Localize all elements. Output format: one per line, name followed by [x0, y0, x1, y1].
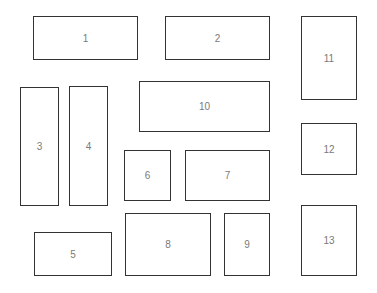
box-12: 12: [301, 123, 357, 175]
box-10: 10: [139, 81, 270, 132]
box-6: 6: [124, 150, 171, 201]
box-4: 4: [69, 86, 108, 206]
box-label: 4: [86, 141, 92, 152]
box-8: 8: [125, 213, 211, 276]
box-1: 1: [33, 16, 138, 60]
box-label: 11: [324, 53, 334, 64]
box-3: 3: [20, 87, 59, 206]
box-9: 9: [224, 213, 270, 276]
box-2: 2: [165, 16, 270, 60]
box-label: 1: [83, 33, 89, 44]
box-label: 6: [145, 170, 151, 181]
box-label: 7: [225, 170, 231, 181]
box-13: 13: [301, 205, 357, 276]
box-label: 5: [70, 249, 76, 260]
box-label: 9: [244, 239, 250, 250]
box-7: 7: [185, 150, 270, 201]
box-label: 10: [199, 101, 210, 112]
box-label: 2: [215, 33, 221, 44]
box-label: 12: [323, 144, 334, 155]
box-label: 13: [323, 235, 334, 246]
box-5: 5: [34, 232, 112, 276]
box-label: 3: [37, 141, 43, 152]
box-label: 8: [165, 239, 171, 250]
box-11: 11: [301, 16, 357, 100]
